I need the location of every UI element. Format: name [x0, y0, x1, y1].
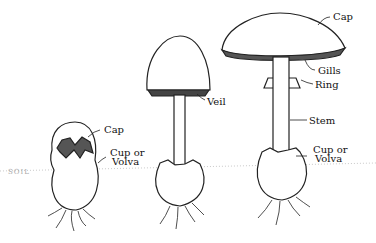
button-cup-label-2: Volva: [112, 157, 139, 167]
young-veil-label: Veil: [207, 97, 226, 107]
button-cap-label: Cap: [104, 125, 124, 135]
mature-stem-label: Stem: [309, 116, 335, 126]
young-stage: [147, 36, 210, 229]
button-stage: [48, 122, 98, 231]
mature-ring-label: Ring: [315, 80, 339, 90]
soil-label: SOIL: [8, 168, 30, 176]
mature-cup-label-2: Volva: [315, 154, 342, 164]
mature-cap-label: Cap: [333, 12, 353, 22]
mature-gills-label: Gills: [318, 66, 341, 76]
